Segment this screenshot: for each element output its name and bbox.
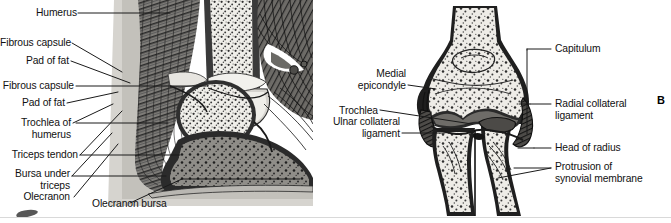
- label-olecranon-bursa: Olecranon bursa: [92, 198, 212, 210]
- label-radial-collateral-ligament: Radial collateral ligament: [555, 98, 655, 121]
- footer-divider: [0, 217, 671, 218]
- label-trochlea-of-humerus: Trochlea of humerus: [0, 117, 71, 140]
- label-pad-of-fat-1: Pad of fat: [0, 55, 69, 67]
- label-fibrous-capsule-2: Fibrous capsule: [0, 80, 74, 92]
- label-bursa-under-triceps: Bursa under triceps: [0, 168, 70, 191]
- label-pad-of-fat-2: Pad of fat: [0, 97, 65, 109]
- panel-letter-b: B: [657, 94, 665, 106]
- label-triceps-tendon: Triceps tendon: [0, 149, 78, 161]
- label-head-of-radius: Head of radius: [555, 142, 655, 154]
- label-humerus: Humerus: [0, 7, 77, 19]
- label-ulnar-collateral-ligament: Ulnar collateral ligament: [318, 116, 400, 139]
- label-fibrous-capsule-1: Fibrous capsule: [0, 37, 70, 49]
- anatomy-figure: Humerus Fibrous capsule Pad of fat Fibro…: [0, 0, 671, 223]
- label-medial-epicondyle: Medial epicondyle: [330, 68, 406, 91]
- panel-a-illustration: [108, 0, 313, 206]
- label-trochlea: Trochlea: [330, 105, 378, 117]
- label-capitulum: Capitulum: [555, 43, 655, 55]
- panel-b-illustration: [405, 6, 545, 216]
- label-protrusion-of-synovial-membrane: Protrusion of synovial membrane: [555, 161, 671, 184]
- label-olecranon: Olecranon: [0, 191, 70, 203]
